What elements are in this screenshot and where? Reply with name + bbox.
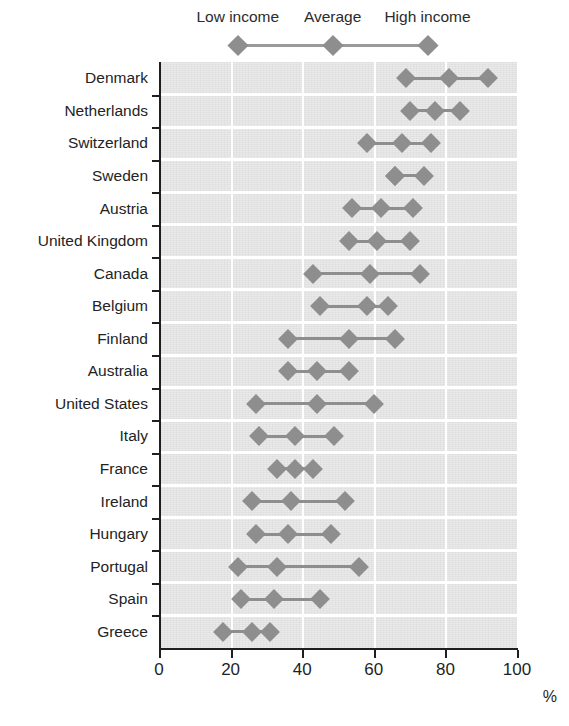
data-point-high-income (378, 296, 398, 316)
data-point-average (282, 492, 302, 512)
plot-area (161, 62, 517, 648)
data-row (161, 62, 517, 95)
data-point-low-income (242, 492, 262, 512)
data-point-average (371, 199, 391, 219)
category-label-italy: Italy (120, 428, 148, 444)
y-axis-tick (152, 388, 160, 390)
legend-diamond-marker (322, 35, 343, 56)
y-axis-tick (152, 192, 160, 194)
y-axis-tick (152, 583, 160, 585)
category-label-hungary: Hungary (89, 526, 148, 542)
y-axis-tick (152, 127, 160, 129)
data-point-high-income (364, 394, 384, 414)
data-row (161, 290, 517, 323)
data-point-low-income (342, 199, 362, 219)
data-row (161, 257, 517, 290)
data-row (161, 95, 517, 128)
x-axis-tick (445, 650, 447, 658)
y-axis-tick (152, 257, 160, 259)
data-point-high-income (421, 133, 441, 153)
x-axis-tick (374, 650, 376, 658)
data-point-low-income (249, 426, 269, 446)
x-axis-tick (231, 650, 233, 658)
data-row (161, 322, 517, 355)
data-point-low-income (246, 524, 266, 544)
x-axis-tick (159, 650, 161, 658)
data-point-low-income (246, 394, 266, 414)
legend-label-average: Average (304, 6, 361, 28)
data-row (161, 388, 517, 421)
data-point-average (307, 394, 327, 414)
x-axis-tick-label: 100 (503, 660, 531, 680)
y-axis-tick (152, 160, 160, 162)
x-axis-tick (302, 650, 304, 658)
data-point-average (339, 329, 359, 349)
data-point-average (385, 166, 405, 186)
category-axis-labels: DenmarkNetherlandsSwitzerlandSwedenAustr… (0, 62, 157, 648)
category-label-greece: Greece (97, 624, 148, 640)
y-axis-tick (152, 322, 160, 324)
data-point-low-income (278, 361, 298, 381)
data-point-high-income (350, 557, 370, 577)
category-label-united-kingdom: United Kingdom (38, 233, 148, 249)
data-point-high-income (260, 622, 280, 642)
y-axis-tick (152, 550, 160, 552)
x-axis-tick-label: 60 (364, 660, 383, 680)
data-point-average (360, 264, 380, 284)
x-axis-tick-label: 40 (293, 660, 312, 680)
data-point-average (278, 524, 298, 544)
category-label-ireland: Ireland (101, 494, 148, 510)
x-axis-tick-label: 20 (221, 660, 240, 680)
data-point-average (285, 426, 305, 446)
data-row (161, 127, 517, 160)
data-point-high-income (478, 68, 498, 88)
data-point-low-income (396, 68, 416, 88)
data-point-low-income (278, 329, 298, 349)
data-point-average (393, 133, 413, 153)
data-point-average (264, 589, 284, 609)
data-point-low-income (303, 264, 323, 284)
data-point-low-income (400, 101, 420, 121)
category-label-australia: Australia (88, 363, 148, 379)
data-point-high-income (321, 524, 341, 544)
data-point-low-income (310, 296, 330, 316)
data-row (161, 225, 517, 258)
data-row (161, 550, 517, 583)
data-point-low-income (339, 231, 359, 251)
data-row (161, 160, 517, 193)
data-point-high-income (400, 231, 420, 251)
data-point-average (267, 557, 287, 577)
gridline-vertical (517, 62, 519, 648)
y-axis-tick (152, 95, 160, 97)
data-row (161, 192, 517, 225)
data-point-average (439, 68, 459, 88)
y-axis-tick (152, 420, 160, 422)
chart-legend: Low incomeAverageHigh income (0, 0, 569, 58)
data-point-average (367, 231, 387, 251)
data-point-high-income (325, 426, 345, 446)
category-label-portugal: Portugal (90, 559, 148, 575)
data-point-average (357, 296, 377, 316)
data-point-high-income (335, 492, 355, 512)
data-row (161, 420, 517, 453)
data-point-high-income (403, 199, 423, 219)
x-axis-unit-label: % (543, 688, 557, 706)
legend-diamond-marker (227, 35, 248, 56)
legend-label-high-income: High income (384, 6, 470, 28)
data-point-average (285, 459, 305, 479)
category-label-finland: Finland (97, 331, 148, 347)
y-axis-tick (152, 485, 160, 487)
x-axis-tick (517, 650, 519, 658)
data-row (161, 615, 517, 648)
y-axis-tick (152, 453, 160, 455)
category-label-sweden: Sweden (92, 168, 148, 184)
data-point-high-income (339, 361, 359, 381)
category-label-united-states: United States (55, 396, 148, 412)
data-point-low-income (228, 557, 248, 577)
category-label-france: France (100, 461, 148, 477)
dot-range-chart: Low incomeAverageHigh income DenmarkNeth… (0, 0, 569, 726)
x-axis-line (159, 648, 518, 650)
legend-labels: Low incomeAverageHigh income (0, 6, 569, 28)
data-point-high-income (414, 166, 434, 186)
data-row (161, 453, 517, 486)
